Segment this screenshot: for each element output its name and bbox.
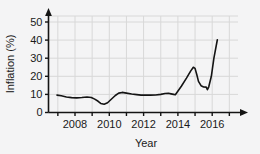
y-tick-label: 40 <box>30 34 42 46</box>
x-tick-label: 2016 <box>200 118 224 130</box>
y-tick-label: 30 <box>30 52 42 64</box>
y-axis-title: Inflation (%) <box>4 35 16 94</box>
y-tick-label: 0 <box>36 106 42 118</box>
x-tick-label: 2010 <box>97 118 121 130</box>
x-axis-tick-labels: 20082010201220142016 <box>63 118 225 130</box>
inflation-line-chart: 01020304050 20082010201220142016 Inflati… <box>0 0 260 154</box>
y-tick-label: 10 <box>30 88 42 100</box>
y-tick-label: 20 <box>30 70 42 82</box>
y-tick-label: 50 <box>30 16 42 28</box>
x-tick-label: 2014 <box>166 118 190 130</box>
x-tick-label: 2012 <box>131 118 155 130</box>
chart-canvas: 01020304050 20082010201220142016 Inflati… <box>0 0 260 154</box>
x-tick-label: 2008 <box>63 118 87 130</box>
x-axis-title: Year <box>135 137 158 149</box>
